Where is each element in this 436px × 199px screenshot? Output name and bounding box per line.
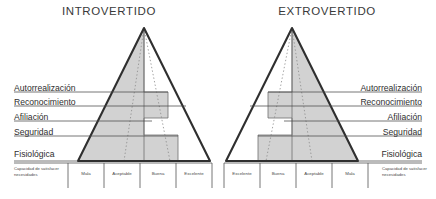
level-label-reconocimiento-extrovertido: Reconocimiento bbox=[360, 98, 422, 107]
axis-category-extrovertido-0: Excelente bbox=[224, 172, 260, 176]
axis-category-extrovertido-2: Aceptable bbox=[296, 172, 332, 176]
level-label-fisiologica-extrovertido: Fisiológica bbox=[381, 150, 422, 159]
axis-category-introvertido-3: Excelente bbox=[176, 172, 212, 176]
level-label-afiliacion-extrovertido: Afiliación bbox=[388, 113, 422, 122]
level-label-autorrealizacion-introvertido: Autorrealización bbox=[14, 84, 76, 93]
level-label-fisiologica-introvertido: Fisiológica bbox=[14, 150, 55, 159]
axis-category-extrovertido-1: Buena bbox=[260, 172, 296, 176]
level-label-seguridad-introvertido: Seguridad bbox=[14, 128, 53, 137]
level-label-seguridad-extrovertido: Seguridad bbox=[383, 128, 422, 137]
level-label-autorrealizacion-extrovertido: Autorrealización bbox=[360, 84, 422, 93]
axis-category-introvertido-0: Mala bbox=[68, 172, 104, 176]
satisfaction-band-introvertido bbox=[78, 28, 178, 161]
axis-category-extrovertido-3: Mala bbox=[332, 172, 368, 176]
level-label-afiliacion-introvertido: Afiliación bbox=[14, 113, 48, 122]
chart-panel-extrovertido: EXTROVERTIDO bbox=[218, 0, 436, 199]
level-label-reconocimiento-introvertido: Reconocimiento bbox=[14, 98, 76, 107]
satisfaction-band-extrovertido bbox=[258, 28, 358, 161]
axis-category-introvertido-1: Aceptable bbox=[104, 172, 140, 176]
chart-panel-introvertido: INTROVERTIDO bbox=[0, 0, 218, 199]
axis-category-introvertido-2: Buena bbox=[140, 172, 176, 176]
figure-canvas: INTROVERTIDO bbox=[0, 0, 436, 199]
axis-note-introvertido: Capacidad de satisfacer necesidades bbox=[14, 166, 60, 178]
axis-note-extrovertido: Capacidad de satisfacer necesidades bbox=[382, 166, 428, 178]
